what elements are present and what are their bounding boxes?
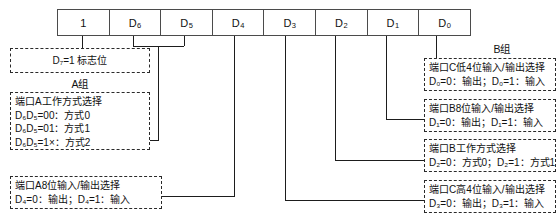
bit-cell-4[interactable]: D4 <box>212 9 265 36</box>
bit-cell-6[interactable]: D6 <box>109 9 162 36</box>
bit-cell-3[interactable]: D3 <box>263 9 316 36</box>
annotation-flag-bit: D₇=1 标志位 <box>10 48 150 73</box>
wire-bit3-chigh <box>285 34 424 200</box>
group-label-b: B组 <box>452 41 552 56</box>
bit-label-0: D <box>438 17 446 29</box>
annotation-port-b-mode-line2: D₂=0：方式0；D₂=1：方式1 <box>429 156 551 170</box>
bit-sub-0: 0 <box>447 21 451 30</box>
bit-label-3: D <box>283 17 291 29</box>
bit-cell-1[interactable]: D1 <box>367 9 420 36</box>
annotation-port-b-io-line2: D₁=0：输出；D₁=1：输入 <box>429 116 551 130</box>
bit-sub-5: 5 <box>189 21 193 30</box>
bit-label-1: D <box>387 17 395 29</box>
annotation-port-a-mode-line3: D₆D₅=01：方式1 <box>15 122 145 136</box>
wire-bit1-bio <box>386 34 424 119</box>
wire-bracket-65-down <box>150 46 159 140</box>
bit-cell-5[interactable]: D5 <box>160 9 213 36</box>
bit-cell-2[interactable]: D2 <box>315 9 368 36</box>
group-label-a: A组 <box>10 76 150 91</box>
bit-label-2: D <box>335 17 343 29</box>
annotation-port-b-mode: 端口B工作方式选择 D₂=0：方式0；D₂=1：方式1 <box>424 139 556 172</box>
annotation-port-c-high-io: 端口C高4位输入/输出选择 D₃=0：输出；D₃=1：输入 <box>424 180 556 213</box>
annotation-port-c-high-io-line1: 端口C高4位输入/输出选择 <box>429 183 551 197</box>
annotation-port-a-io-line2: D₄=0：输出；D₄=1：输入 <box>15 193 157 207</box>
bit-label-7: 1 <box>80 17 86 29</box>
annotation-port-c-low-io: 端口C低4位输入/输出选择 D₀=0：输出；D₀=1：输入 <box>424 58 556 91</box>
bit-cell-0[interactable]: D0 <box>418 9 471 36</box>
annotation-port-a-mode-line2: D₆D₅=00：方式0 <box>15 109 145 123</box>
diagram-canvas: 1 D6 D5 D4 D3 D2 D1 D0 D₇=1 标志位 A组 端口A工作… <box>0 0 558 224</box>
bit-label-6: D <box>129 17 137 29</box>
annotation-port-b-mode-line1: 端口B工作方式选择 <box>429 142 551 156</box>
bit-sub-6: 6 <box>137 21 141 30</box>
annotation-port-b-io: 端口B8位输入/输出选择 D₁=0：输出；D₁=1：输入 <box>424 99 556 132</box>
wire-bit2-bmode <box>336 34 425 160</box>
annotation-port-c-low-io-line1: 端口C低4位输入/输出选择 <box>429 61 551 75</box>
annotation-port-c-high-io-line2: D₃=0：输出；D₃=1：输入 <box>429 197 551 211</box>
bit-sub-3: 3 <box>292 21 296 30</box>
annotation-port-a-mode: 端口A工作方式选择 D₆D₅=00：方式0 D₆D₅=01：方式1 D₆D₅=1… <box>10 92 150 150</box>
annotation-flag-line1: D₇=1 标志位 <box>53 54 108 68</box>
annotation-port-c-low-io-line2: D₀=0：输出；D₀=1：输入 <box>429 75 551 89</box>
annotation-port-a-io-line1: 端口A8位输入/输出选择 <box>15 179 157 193</box>
bit-label-5: D <box>180 17 188 29</box>
bit-label-4: D <box>232 17 240 29</box>
bit-cell-7[interactable]: 1 <box>57 9 110 36</box>
group-label-a-text: A组 <box>71 78 88 90</box>
annotation-port-b-io-line1: 端口B8位输入/输出选择 <box>429 102 551 116</box>
annotation-port-a-mode-line1: 端口A工作方式选择 <box>15 95 145 109</box>
wire-bit4-aio <box>162 34 235 196</box>
annotation-port-a-mode-line4: D₆D₅=1×：方式2 <box>15 136 145 150</box>
bit-sub-1: 1 <box>395 21 399 30</box>
bit-sub-4: 4 <box>240 21 244 30</box>
group-label-b-text: B组 <box>493 43 510 55</box>
annotation-port-a-io: 端口A8位输入/输出选择 D₄=0：输出；D₄=1：输入 <box>10 176 162 209</box>
control-word-register: 1 D6 D5 D4 D3 D2 D1 D0 <box>57 9 471 36</box>
bit-sub-2: 2 <box>343 21 347 30</box>
